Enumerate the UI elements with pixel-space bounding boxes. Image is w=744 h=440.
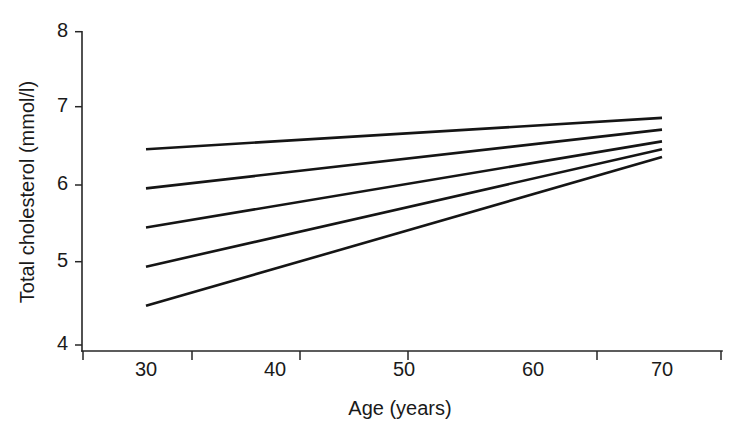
x-tick-label-60: 60 — [522, 358, 544, 380]
y-tick-label-6: 6 — [57, 172, 68, 194]
y-tick-label-5: 5 — [57, 249, 68, 271]
data-line-3 — [146, 141, 662, 227]
x-tick-label-50: 50 — [393, 358, 415, 380]
y-tick-label-8: 8 — [57, 19, 68, 41]
chart-figure: Total cholesterol (mmol/l) Age (years) 8… — [0, 0, 744, 440]
data-line-4 — [146, 149, 662, 266]
cholesterol-line-chart: Total cholesterol (mmol/l) Age (years) 8… — [0, 0, 744, 440]
y-tick-label-7: 7 — [57, 94, 68, 116]
data-line-1 — [146, 118, 662, 149]
x-axis-title: Age (years) — [348, 397, 451, 419]
y-axis-title: Total cholesterol (mmol/l) — [16, 81, 38, 303]
data-line-group — [146, 118, 662, 306]
x-tick-label-70: 70 — [651, 358, 673, 380]
x-tick-label-30: 30 — [135, 358, 157, 380]
x-tick-label-40: 40 — [264, 358, 286, 380]
y-tick-label-4: 4 — [57, 332, 68, 354]
